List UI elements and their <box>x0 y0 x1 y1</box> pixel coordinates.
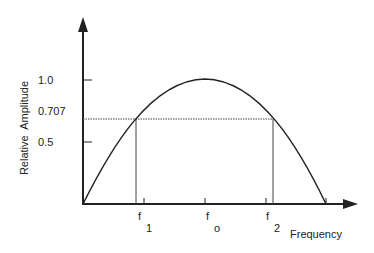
x-label-f2-base: f <box>266 210 270 222</box>
response-curve <box>83 79 326 204</box>
y-axis-arrow-icon <box>78 17 88 32</box>
x-label-f2-sub: 2 <box>274 222 280 234</box>
y-axis-title: Relative Amplitude <box>18 81 30 175</box>
x-axis-arrow-icon <box>343 199 358 209</box>
x-label-fo-base: f <box>206 210 210 222</box>
x-label-f1-base: f <box>138 210 142 222</box>
x-label-f1-sub: 1 <box>146 222 152 234</box>
y-label-05: 0.5 <box>38 136 53 148</box>
bandwidth-diagram: 1.0 0.707 0.5 Relative Amplitude f 1 f o… <box>0 0 374 253</box>
y-label-1: 1.0 <box>38 74 53 86</box>
x-label-fo-sub: o <box>214 222 220 234</box>
x-axis-title: Frequency <box>290 228 342 240</box>
y-label-0707: 0.707 <box>38 105 66 117</box>
